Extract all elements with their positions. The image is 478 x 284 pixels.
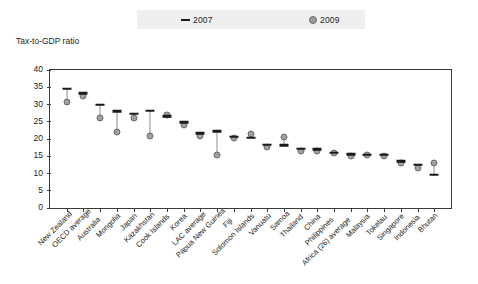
marker-2007 [413,163,422,166]
x-tick-mark [334,208,335,212]
x-axis-label: Fiji [221,216,234,229]
marker-2007 [430,174,439,177]
marker-2007 [62,88,71,91]
marker-2007 [213,130,222,133]
marker-2007 [96,103,105,106]
x-axis-label: Bhutan [416,211,439,234]
x-axis-label: Kazakhstan [122,210,156,244]
x-axis-label: Africa (26) average [300,215,352,267]
marker-2007 [229,136,238,139]
marker-2009 [130,114,137,121]
x-axis-label: Papua New Guinea [174,207,227,260]
marker-2009 [97,115,104,122]
x-tick-mark [67,208,68,212]
x-axis-label: Solomon Islands [210,211,256,257]
legend-label-2007: 2007 [193,15,213,25]
x-tick-mark [301,208,302,212]
chart-container: 2007 2009 Tax-to-GDP ratio 0510152025303… [0,0,478,284]
x-axis-label: Vanuatu [247,211,273,237]
legend-item-2007: 2007 [181,10,213,29]
marker-2007 [112,110,121,113]
x-axis-label: LAC average [170,209,208,247]
x-tick-mark [117,208,118,212]
x-tick-mark [284,208,285,212]
circle-marker-icon [309,16,317,24]
x-tick-mark [234,208,235,212]
y-tick-label: 25 [9,116,43,126]
dash-marker-icon [181,19,190,21]
marker-2007 [263,144,272,147]
x-axis-label: Indonesia [392,212,422,242]
marker-2007 [79,92,88,95]
marker-2007 [246,136,255,139]
x-tick-mark [134,208,135,212]
marker-2009 [63,99,70,106]
y-tick-label: 0 [9,202,43,212]
x-axis-label: Thailand [278,212,305,239]
x-axis-label: Philippines [303,215,335,247]
x-tick-mark [384,208,385,212]
marker-2007 [346,153,355,156]
x-axis-label: Mongolia [94,211,122,239]
x-axis-label: Japan [118,211,139,232]
marker-2007 [146,109,155,112]
x-tick-mark [217,208,218,212]
marker-2009 [147,132,154,139]
x-tick-mark [401,208,402,212]
marker-2009 [214,151,221,158]
x-tick-mark [434,208,435,212]
x-axis-label: Korea [168,211,189,232]
y-tick-label: 35 [9,81,43,91]
x-axis-label: OECD average [50,207,93,250]
marker-2007 [129,113,138,116]
y-tick-label: 20 [9,133,43,143]
x-tick-mark [100,208,101,212]
x-tick-mark [367,208,368,212]
x-axis-label: Tokelau [364,212,389,237]
x-tick-mark [351,208,352,212]
x-tick-mark [184,208,185,212]
x-axis-label: New Zealand [36,209,74,247]
marker-2007 [363,153,372,156]
x-axis-label: Singapore [375,211,406,242]
marker-2007 [179,121,188,124]
x-tick-mark [83,208,84,212]
marker-2007 [380,154,389,157]
y-axis-title: Tax-to-GDP ratio [16,36,79,46]
y-tick-label: 5 [9,185,43,195]
marker-2009 [113,129,120,136]
marker-2007 [330,152,339,155]
x-axis-label: Malaysia [344,212,372,240]
data-series-layer [50,70,451,208]
x-tick-mark [150,208,151,212]
x-axis-label: Australia [75,215,102,242]
x-tick-mark [200,208,201,212]
y-tick-label: 10 [9,168,43,178]
marker-2007 [196,132,205,135]
x-tick-mark [418,208,419,212]
x-tick-mark [267,208,268,212]
plot-area: 0510152025303540 [49,69,452,209]
x-axis-label: Samoa [268,209,291,232]
marker-2007 [162,115,171,118]
marker-2007 [279,144,288,147]
chart-legend: 2007 2009 [137,10,365,29]
marker-2009 [280,134,287,141]
marker-2007 [313,148,322,151]
y-tick-label: 30 [9,99,43,109]
marker-2007 [296,147,305,150]
x-tick-mark [317,208,318,212]
x-tick-mark [167,208,168,212]
legend-item-2009: 2009 [309,10,340,29]
y-tick-label: 15 [9,150,43,160]
x-axis-label: Cook Islands [134,212,171,249]
legend-label-2009: 2009 [320,15,340,25]
marker-2007 [396,160,405,163]
y-tick-label: 40 [9,64,43,74]
marker-2009 [431,160,438,167]
x-tick-mark [251,208,252,212]
x-axis-label: China [302,212,322,232]
marker-2009 [414,165,421,172]
